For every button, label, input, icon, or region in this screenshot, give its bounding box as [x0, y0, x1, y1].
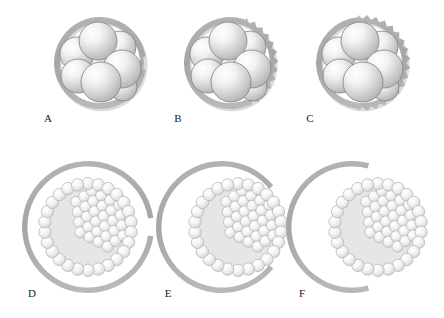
embryo-hatching-figure: ABCDEF — [0, 0, 444, 318]
panel-label-b: B — [174, 112, 181, 124]
figure-root: ABCDEF — [0, 0, 444, 318]
panel-label-f: F — [299, 287, 305, 299]
panel-d — [22, 161, 153, 293]
panel-f — [286, 161, 427, 293]
blastomere — [211, 62, 251, 102]
blastocyst — [39, 177, 137, 276]
trophoblast-cell — [221, 179, 233, 191]
panel-c — [316, 15, 410, 111]
panel-b — [184, 17, 278, 111]
panel-label-a: A — [44, 112, 52, 124]
panel-label-e: E — [165, 287, 172, 299]
panel-e — [156, 161, 287, 293]
blastocyst — [189, 177, 287, 276]
trophoblast-cell — [361, 179, 373, 191]
panels-layer — [22, 15, 427, 293]
panel-label-c: C — [306, 112, 313, 124]
blastocyst — [329, 177, 427, 276]
blastomere — [81, 62, 121, 102]
trophoblast-cell — [71, 179, 83, 191]
blastomere — [343, 62, 383, 102]
panel-label-d: D — [28, 287, 36, 299]
panel-a — [54, 17, 148, 111]
